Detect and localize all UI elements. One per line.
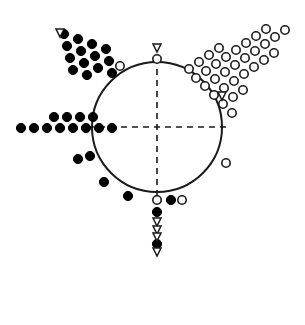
marker-open-down-triangle — [153, 218, 161, 226]
marker-open-circle — [252, 32, 260, 40]
marker-filled-circle — [42, 123, 51, 132]
marker-open-circle — [222, 53, 230, 61]
marker-open-circle — [202, 67, 210, 75]
marker-filled-circle — [88, 112, 97, 121]
marker-filled-circle — [90, 51, 99, 60]
marker-open-circle — [260, 56, 268, 64]
marker-filled-circle — [82, 70, 91, 79]
marker-filled-circle — [152, 207, 161, 216]
marker-open-circle — [153, 196, 161, 204]
marker-filled-circle — [76, 46, 85, 55]
series-bottom-right-pair — [166, 195, 175, 204]
marker-filled-circle — [101, 44, 110, 53]
series-upper-right-arm-base-triangle — [218, 92, 226, 100]
marker-filled-circle — [99, 177, 108, 186]
marker-open-circle — [251, 47, 259, 55]
marker-open-circle — [240, 70, 248, 78]
marker-filled-circle — [94, 123, 103, 132]
marker-filled-circle — [29, 123, 38, 132]
marker-open-circle — [215, 44, 223, 52]
marker-open-circle — [281, 26, 289, 34]
series-upper-left-arm-open-circle — [116, 62, 124, 70]
marker-filled-circle — [166, 195, 175, 204]
marker-open-circle — [232, 46, 240, 54]
marker-filled-circle — [55, 123, 64, 132]
series-top-axis-open-circle — [153, 55, 161, 63]
marker-filled-circle — [93, 63, 102, 72]
marker-filled-circle — [107, 68, 116, 77]
series-left-arm-upper-row — [49, 112, 97, 121]
marker-open-circle — [201, 82, 209, 90]
series-left-arm-lower-row — [16, 123, 116, 132]
marker-open-circle — [231, 61, 239, 69]
marker-filled-circle — [85, 151, 94, 160]
marker-filled-circle — [75, 112, 84, 121]
marker-filled-circle — [68, 65, 77, 74]
marker-filled-circle — [73, 154, 82, 163]
marker-open-circle — [219, 100, 227, 108]
marker-filled-circle — [73, 34, 82, 43]
marker-filled-circle — [62, 112, 71, 121]
marker-open-circle — [178, 196, 186, 204]
marker-filled-circle — [16, 123, 25, 132]
marker-filled-circle — [81, 123, 90, 132]
marker-open-down-triangle — [153, 44, 161, 52]
series-lower-left-scatter — [73, 151, 132, 200]
marker-filled-circle — [65, 53, 74, 62]
marker-open-circle — [185, 65, 193, 73]
marker-filled-circle — [107, 123, 116, 132]
marker-filled-circle — [79, 58, 88, 67]
marker-open-circle — [229, 93, 237, 101]
marker-open-down-triangle — [153, 248, 161, 256]
marker-open-circle — [228, 109, 236, 117]
marker-open-circle — [195, 58, 203, 66]
marker-filled-circle — [68, 123, 77, 132]
marker-filled-circle — [62, 41, 71, 50]
marker-open-circle — [116, 62, 124, 70]
marker-open-circle — [211, 75, 219, 83]
marker-open-circle — [250, 63, 258, 71]
marker-open-circle — [192, 74, 200, 82]
marker-filled-circle — [49, 112, 58, 121]
marker-open-down-triangle — [218, 92, 226, 100]
data-markers-layer — [16, 25, 289, 256]
marker-open-circle — [230, 77, 238, 85]
marker-open-circle — [270, 49, 278, 57]
series-upper-right-arm-open-circles — [185, 25, 289, 117]
marker-open-circle — [205, 51, 213, 59]
series-top-axis-triangle — [153, 44, 161, 52]
marker-open-circle — [220, 84, 228, 92]
series-bottom-column-open-circles — [153, 196, 161, 204]
series-right-side-open-circle — [222, 159, 230, 167]
marker-open-circle — [262, 25, 270, 33]
marker-filled-circle — [123, 191, 132, 200]
marker-open-circle — [221, 68, 229, 76]
marker-open-circle — [271, 33, 279, 41]
marker-open-circle — [239, 86, 247, 94]
series-bottom-right-open — [178, 196, 186, 204]
series-upper-left-arm — [59, 29, 116, 79]
marker-open-circle — [261, 40, 269, 48]
polar-scatter-figure — [0, 0, 305, 325]
marker-open-circle — [241, 54, 249, 62]
marker-open-circle — [153, 55, 161, 63]
marker-open-circle — [222, 159, 230, 167]
marker-filled-circle — [104, 56, 113, 65]
series-bottom-column-triangles — [153, 218, 161, 256]
marker-open-circle — [212, 60, 220, 68]
marker-open-circle — [242, 39, 250, 47]
plot-canvas — [0, 0, 305, 325]
marker-filled-circle — [87, 39, 96, 48]
marker-open-circle — [210, 91, 218, 99]
